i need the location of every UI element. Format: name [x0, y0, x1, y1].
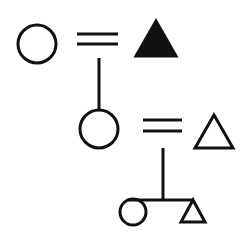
gen1-female-circle	[18, 25, 56, 63]
gen3-male-triangle	[181, 200, 205, 222]
gen2-male-triangle	[195, 115, 233, 148]
kinship-diagram	[0, 0, 244, 238]
gen3-female-circle	[120, 199, 146, 225]
gen2-female-circle	[80, 110, 118, 148]
gen1-male-filled-triangle	[136, 21, 176, 56]
